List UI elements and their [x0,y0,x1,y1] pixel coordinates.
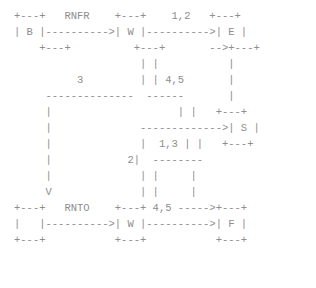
ascii-diagram-canvas: +---+ RNFR +---+ 1,2 +---+ | B |--------… [0,0,316,288]
ascii-art-state-diagram: +---+ RNFR +---+ 1,2 +---+ | B |--------… [14,8,260,248]
